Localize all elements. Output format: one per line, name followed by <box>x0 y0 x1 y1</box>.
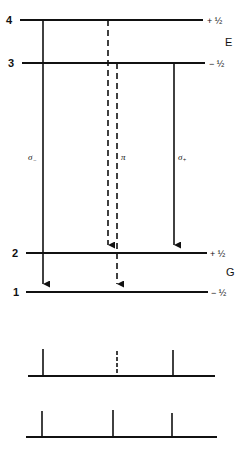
level-3-number: 3 <box>8 57 14 69</box>
level-1-mj: − ½ <box>211 288 227 298</box>
pi-label: π <box>121 152 126 162</box>
level-4-number: 4 <box>6 14 13 26</box>
level-2-mj: + ½ <box>210 249 226 259</box>
spectrum-bottom <box>26 410 217 437</box>
excited-state-label: E <box>225 36 232 48</box>
level-4: 4 + ½ <box>6 14 223 26</box>
sigma-minus-label: σ− <box>28 152 37 163</box>
energy-level-diagram: 4 + ½ 3 − ½ E 2 + ½ G 1 − ½ σ− π σ+ <box>0 0 242 452</box>
level-1-number: 1 <box>13 286 19 298</box>
level-3-mj: − ½ <box>209 59 225 69</box>
sigma-plus-label: σ+ <box>178 152 187 163</box>
level-2: 2 + ½ <box>12 247 226 259</box>
level-1: 1 − ½ <box>13 286 227 298</box>
ground-state-label: G <box>226 266 235 278</box>
level-2-number: 2 <box>12 247 18 259</box>
level-4-mj: + ½ <box>207 16 223 26</box>
spectrum-top <box>28 349 215 376</box>
